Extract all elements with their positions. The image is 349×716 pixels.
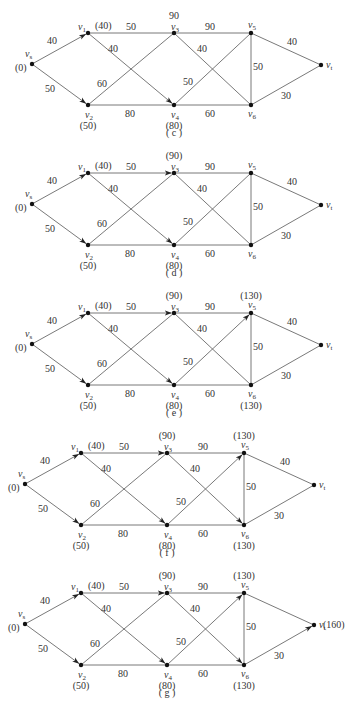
edge-weight-label: 60 <box>205 388 215 399</box>
node-vt <box>312 483 316 487</box>
node-name-v6: v6 <box>248 108 256 121</box>
edge-weight-label: 40 <box>47 35 57 46</box>
distance-label-vs: (0) <box>8 622 20 634</box>
distance-label-v2: (50) <box>80 400 97 412</box>
edge-weight-label: 40 <box>47 175 57 186</box>
edge-weight-label: 40 <box>280 456 290 467</box>
edge-weight-label: 50 <box>45 223 55 234</box>
distance-label-v1: (40) <box>88 580 105 592</box>
node-vs <box>23 482 27 486</box>
node-name-v1: v1 <box>71 441 79 454</box>
node-v6 <box>242 523 246 527</box>
node-name-vs: vs <box>25 328 32 341</box>
edge-weight-label: 50 <box>38 643 48 654</box>
distance-label-v1: (40) <box>95 20 112 32</box>
edge-weight-label: 40 <box>40 455 50 466</box>
node-subscript: t <box>330 204 332 212</box>
edge-weight-label: 40 <box>287 316 297 327</box>
edge-weight-label: 40 <box>287 176 297 187</box>
panel-caption: ( f ) <box>160 547 175 559</box>
node-subscript: s <box>29 53 32 61</box>
distance-label-v6: (130) <box>233 540 255 552</box>
node-v2 <box>86 243 90 247</box>
node-subscript: 5 <box>252 164 256 172</box>
edge-weight-label: 50 <box>183 356 193 367</box>
edge-weight-label: 80 <box>118 668 128 679</box>
distance-label-v6: (130) <box>233 680 255 692</box>
panel-caption: ( g ) <box>159 687 176 699</box>
edge-weight-label: 50 <box>253 201 263 212</box>
directed-edge-arrow <box>32 34 86 64</box>
node-v1 <box>86 311 90 315</box>
node-subscript: 3 <box>175 166 179 174</box>
distance-label-v2: (50) <box>73 680 90 692</box>
node-subscript: 5 <box>252 24 256 32</box>
node-subscript: 6 <box>252 253 256 261</box>
directed-edge-arrow <box>88 33 172 103</box>
directed-edge-arrow <box>167 593 242 663</box>
node-v6 <box>249 103 253 107</box>
edge-weight-label: 50 <box>119 581 129 592</box>
node-vs <box>30 202 34 206</box>
node-name-vt: vt <box>326 199 332 212</box>
node-name-v1: v1 <box>78 161 86 174</box>
directed-edge-arrow <box>88 173 172 243</box>
distance-label-v2: (50) <box>73 540 90 552</box>
node-subscript: t <box>330 344 332 352</box>
distance-label-vs: (0) <box>15 62 27 74</box>
edge-weight-label: 60 <box>90 498 100 509</box>
edge-weight-label: 40 <box>190 603 200 614</box>
distance-label-v2: (50) <box>80 120 97 132</box>
node-subscript: 5 <box>245 444 249 452</box>
node-name-v1: v1 <box>71 581 79 594</box>
panel-caption: ( e ) <box>166 407 182 419</box>
node-v2 <box>79 663 83 667</box>
edge-weight-label: 50 <box>253 341 263 352</box>
directed-edge-arrow <box>88 313 172 383</box>
node-name-vs: vs <box>18 608 25 621</box>
directed-edge-arrow <box>167 453 242 523</box>
edge-weight-label: 50 <box>126 21 136 32</box>
edge-weight-label: 50 <box>246 481 256 492</box>
node-vs <box>30 62 34 66</box>
node-subscript: s <box>29 193 32 201</box>
directed-edge-arrow <box>25 484 79 524</box>
node-subscript: s <box>22 613 25 621</box>
edge-weight-label: 30 <box>274 510 284 521</box>
distance-label-v3: (90) <box>166 290 183 302</box>
node-name-vt: vt <box>326 339 332 352</box>
edge-weight-label: 90 <box>198 581 208 592</box>
node-vt <box>319 63 323 67</box>
edge-weight-label: 80 <box>118 528 128 539</box>
edge-weight-label: 50 <box>45 83 55 94</box>
node-subscript: 6 <box>252 113 256 121</box>
node-name-v6: v6 <box>248 248 256 261</box>
directed-edge-arrow <box>32 314 86 344</box>
edge-weight-label: 50 <box>246 621 256 632</box>
distance-label-v5: (130) <box>240 290 262 302</box>
distance-label-v2: (50) <box>80 260 97 272</box>
edge-weight-label: 60 <box>205 248 215 259</box>
edge-weight-label: 30 <box>281 90 291 101</box>
node-v6 <box>249 383 253 387</box>
edge-weight-label: 60 <box>90 638 100 649</box>
edge-weight-label: 40 <box>108 43 118 54</box>
distance-label-v3: (90) <box>159 430 176 442</box>
node-subscript: 1 <box>75 586 79 594</box>
edge-weight-label: 40 <box>287 36 297 47</box>
edge-weight-label: 50 <box>183 216 193 227</box>
directed-edge-arrow <box>167 595 242 665</box>
node-subscript: 1 <box>82 26 86 34</box>
node-subscript: 1 <box>82 166 86 174</box>
distance-label-vs: (0) <box>8 482 20 494</box>
node-name-v5: v5 <box>248 19 256 32</box>
edge-weight-label: 50 <box>119 441 129 452</box>
node-subscript: s <box>29 333 32 341</box>
shortest-path-figure: 40505040608090405060504030vs(0)v1(40)v2(… <box>0 0 349 716</box>
edge-weight-label: 40 <box>40 595 50 606</box>
node-subscript: s <box>22 473 25 481</box>
edge-weight-label: 60 <box>198 668 208 679</box>
distance-label-v5: (130) <box>233 570 255 582</box>
node-name-vs: vs <box>25 48 32 61</box>
node-subscript: 3 <box>175 306 179 314</box>
